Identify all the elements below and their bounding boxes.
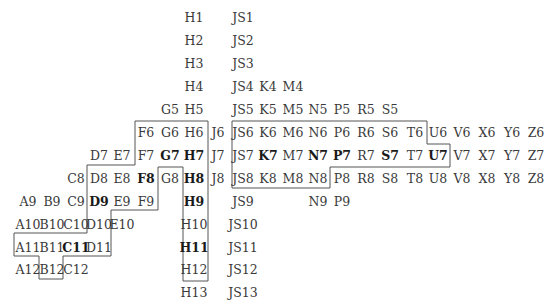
grid-cell-h3: H3 <box>185 58 204 71</box>
grid-cell-r7: R7 <box>357 150 374 163</box>
grid-cell-y6: Y6 <box>504 127 520 140</box>
grid-cell-f7: F7 <box>138 150 155 163</box>
grid-cell-h13: H13 <box>181 287 208 300</box>
grid-cell-e7: E7 <box>113 150 130 163</box>
grid-cell-f8: F8 <box>137 173 155 186</box>
grid-cell-m8: M8 <box>283 173 304 186</box>
grid-cell-z8: Z8 <box>528 173 545 186</box>
grid-cell-n8: N8 <box>309 173 328 186</box>
grid-cell-n7: N7 <box>308 150 328 163</box>
grid-cell-e9: E9 <box>113 196 130 209</box>
grid-cell-d8: D8 <box>90 173 108 186</box>
grid-cell-u6: U6 <box>429 127 448 140</box>
grid-cell-h1: H1 <box>185 12 204 25</box>
grid-cell-r6: R6 <box>357 127 374 140</box>
grid-cell-v6: V6 <box>454 127 471 140</box>
grid-cell-x8: X8 <box>479 173 496 186</box>
grid-diagram: H1JS1H2JS2H3JS3H4JS4K4M4G5H5JS5K5M5N5P5R… <box>0 0 554 305</box>
grid-cell-j8: J8 <box>212 173 225 186</box>
grid-cell-d10: D10 <box>86 219 112 232</box>
grid-cell-h2: H2 <box>185 35 204 48</box>
grid-cell-g5: G5 <box>161 104 179 117</box>
grid-cell-k7: K7 <box>258 150 278 163</box>
grid-cell-a11: A11 <box>16 242 41 255</box>
grid-cell-b11: B11 <box>39 242 64 255</box>
grid-cell-h10: H10 <box>181 219 208 232</box>
grid-cell-k5: K5 <box>259 104 276 117</box>
grid-cell-y7: Y7 <box>504 150 520 163</box>
grid-cell-s5: S5 <box>382 104 399 117</box>
grid-cell-p8: P8 <box>334 173 350 186</box>
grid-cell-js4: JS4 <box>232 81 254 94</box>
grid-cell-d7: D7 <box>90 150 108 163</box>
grid-cell-js13: JS13 <box>228 287 257 300</box>
grid-cell-j7: J7 <box>212 150 225 163</box>
grid-cell-js3: JS3 <box>232 58 254 71</box>
grid-cell-n5: N5 <box>309 104 328 117</box>
grid-cell-r8: R8 <box>357 173 374 186</box>
grid-cell-h7: H7 <box>184 150 205 163</box>
grid-cell-g7: G7 <box>160 150 179 163</box>
grid-cell-a12: A12 <box>16 264 41 277</box>
grid-cell-k4: K4 <box>259 81 276 94</box>
grid-cell-j6: J6 <box>212 127 225 140</box>
grid-cell-t6: T6 <box>407 127 423 140</box>
grid-cell-p5: P5 <box>334 104 350 117</box>
grid-cell-h5: H5 <box>185 104 204 117</box>
grid-cell-k8: K8 <box>259 173 276 186</box>
grid-cell-a10: A10 <box>16 219 41 232</box>
grid-cell-b9: B9 <box>43 196 60 209</box>
grid-cell-s7: S7 <box>381 150 399 163</box>
grid-cell-h12: H12 <box>181 264 208 277</box>
grid-cell-h11: H11 <box>179 242 208 255</box>
grid-cell-js1: JS1 <box>232 12 254 25</box>
grid-cell-b10: B10 <box>39 219 64 232</box>
grid-cell-js12: JS12 <box>228 264 257 277</box>
grid-cell-js7: JS7 <box>232 150 254 163</box>
grid-cell-n9: N9 <box>309 196 328 209</box>
grid-cell-h4: H4 <box>185 81 204 94</box>
grid-cell-z6: Z6 <box>528 127 545 140</box>
grid-cell-m7: M7 <box>283 150 304 163</box>
grid-cell-c9: C9 <box>67 196 85 209</box>
grid-cell-n6: N6 <box>309 127 328 140</box>
grid-cell-t8: T8 <box>407 173 423 186</box>
grid-cell-e10: E10 <box>109 219 134 232</box>
grid-cell-f9: F9 <box>138 196 155 209</box>
grid-cell-d11: D11 <box>86 242 112 255</box>
grid-cell-g6: G6 <box>161 127 179 140</box>
grid-cell-h9: H9 <box>184 196 205 209</box>
grid-cell-p6: P6 <box>334 127 350 140</box>
grid-cell-m4: M4 <box>283 81 304 94</box>
grid-cell-g8: G8 <box>161 173 179 186</box>
grid-cell-h6: H6 <box>185 127 204 140</box>
grid-cell-c8: C8 <box>67 173 85 186</box>
grid-cell-m5: M5 <box>283 104 304 117</box>
grid-cell-e8: E8 <box>113 173 130 186</box>
grid-cell-s8: S8 <box>382 173 399 186</box>
grid-cell-a9: A9 <box>20 196 37 209</box>
grid-cell-y8: Y8 <box>504 173 520 186</box>
grid-cell-b12: B12 <box>39 264 64 277</box>
grid-cell-f6: F6 <box>138 127 155 140</box>
grid-cell-s6: S6 <box>382 127 399 140</box>
grid-cell-h8: H8 <box>184 173 205 186</box>
grid-cell-c10: C10 <box>63 219 88 232</box>
grid-cell-v7: V7 <box>454 150 471 163</box>
grid-cell-t7: T7 <box>407 150 423 163</box>
grid-cell-p7: P7 <box>333 150 351 163</box>
grid-cell-js8: JS8 <box>232 173 254 186</box>
grid-cell-js5: JS5 <box>232 104 254 117</box>
grid-cell-js6: JS6 <box>232 127 254 140</box>
grid-cell-js10: JS10 <box>228 219 257 232</box>
grid-cell-u8: U8 <box>429 173 448 186</box>
grid-cell-js2: JS2 <box>232 35 254 48</box>
grid-cell-k6: K6 <box>259 127 276 140</box>
grid-cell-p9: P9 <box>334 196 350 209</box>
grid-cell-r5: R5 <box>357 104 374 117</box>
grid-cell-x7: X7 <box>479 150 496 163</box>
grid-cell-c12: C12 <box>63 264 88 277</box>
grid-cell-x6: X6 <box>479 127 496 140</box>
grid-cell-d9: D9 <box>89 196 109 209</box>
grid-cell-u7: U7 <box>428 150 448 163</box>
